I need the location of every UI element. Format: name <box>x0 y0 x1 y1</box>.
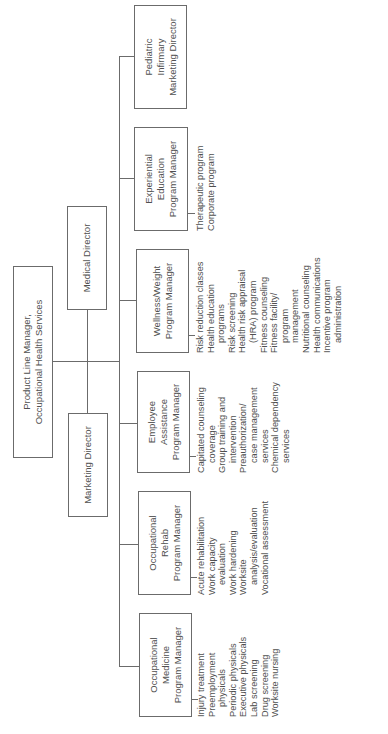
list-item: Capitated counseling <box>196 382 207 473</box>
drop-occ-rehab <box>119 544 138 545</box>
employee-assistance-box: Employee Assistance Program Manager <box>137 371 190 473</box>
list-tick <box>188 213 195 214</box>
marketing-director-box: Marketing Director <box>68 413 108 517</box>
medical-director-label: Medical Director <box>81 224 93 293</box>
list-item-continuation: coverage <box>207 382 218 473</box>
list-item-continuation: case management <box>249 382 260 473</box>
occupational-rehab-services: Acute rehabilitation Work capacity evalu… <box>196 501 270 595</box>
list-item-continuation: evaluation <box>217 501 228 595</box>
marketing-director-label: Marketing Director <box>82 426 94 504</box>
root-title-line2: Occupational Health Services <box>33 300 45 425</box>
occupational-medicine-services: Injury treatment Preemployment physicals… <box>196 637 281 717</box>
connector-trunk <box>119 56 120 667</box>
list-item-continuation: administration <box>333 258 344 354</box>
list-item: Health education <box>206 258 217 354</box>
box-line: Occupational <box>147 505 159 582</box>
box-line: Rehab <box>159 505 171 582</box>
list-item: Health risk appraisal <box>237 258 248 354</box>
box-line: Occupational <box>148 627 160 704</box>
list-item-continuation: program <box>280 258 291 354</box>
experiential-education-services: Therapeutic program Corporate program <box>195 146 216 231</box>
list-item: Fitness facility/ <box>269 258 280 354</box>
box-line: Program Manager <box>167 141 179 218</box>
occupational-medicine-box: Occupational Medicine Program Manager <box>139 613 192 717</box>
list-item: Acute rehabilitation <box>196 501 207 595</box>
medical-director-box: Medical Director <box>67 206 107 310</box>
box-line: Program Manager <box>172 627 184 704</box>
drop-employee-assistance <box>119 423 137 424</box>
list-item: Preauthorization/ <box>238 382 249 473</box>
list-item-continuation: analysis/evaluation <box>249 501 260 595</box>
drop-wellness <box>119 300 136 301</box>
box-line: Program Manager <box>171 505 183 582</box>
list-item: Corporate program <box>206 146 217 231</box>
list-item: Fitness counseling <box>259 258 270 354</box>
drop-experiential <box>119 178 134 179</box>
list-item: Work capacity <box>207 501 218 595</box>
list-item: Work hardening <box>228 501 239 595</box>
box-line: Program Manager <box>170 384 182 461</box>
box-line: Wellness/Weight <box>151 263 163 340</box>
list-item-continuation: programs <box>216 258 227 354</box>
drop-occ-medicine <box>119 666 139 667</box>
box-line: Education <box>155 141 167 218</box>
box-line: Program Manager <box>163 263 175 340</box>
list-item: Risk reduction classes <box>195 258 206 354</box>
list-item: Periodic physicals <box>228 637 239 717</box>
list-item: Lab screening <box>249 637 260 717</box>
org-chart: Product Line Manager, Occupational Healt… <box>0 0 388 734</box>
list-item: Preemployment <box>207 637 218 717</box>
box-line: Medicine <box>160 627 172 704</box>
box-line: Pediatric <box>143 18 155 96</box>
list-item: Drug screening <box>260 637 271 717</box>
drop-pediatric <box>119 56 134 57</box>
box-line: Employee <box>146 384 158 461</box>
list-item: Health communications <box>312 258 323 354</box>
list-item: Worksite nursing <box>270 637 281 717</box>
list-item: Vocational assessment <box>260 501 271 595</box>
list-item: Chemical dependency <box>270 382 281 473</box>
list-item: Risk screening <box>227 258 238 354</box>
employee-assistance-services: Capitated counseling coverage Group trai… <box>196 382 291 473</box>
wellness-weight-box: Wellness/Weight Program Manager <box>136 249 189 353</box>
list-item-continuation: services <box>281 382 292 473</box>
box-line: Marketing Director <box>167 18 179 96</box>
box-line: Infirmary <box>155 18 167 96</box>
list-item-continuation: intervention <box>228 382 239 473</box>
list-item: Executive physicals <box>238 637 249 717</box>
connector-root-to-trunk <box>53 361 119 362</box>
experiential-education-box: Experiential Education Program Manager <box>134 127 188 231</box>
connector-directors <box>87 310 88 413</box>
box-line: Experiential <box>143 141 155 218</box>
list-item-continuation: (HRA) program <box>248 258 259 354</box>
list-item: Injury treatment <box>196 637 207 717</box>
root-box-product-line-manager: Product Line Manager, Occupational Healt… <box>13 266 53 458</box>
pediatric-infirmary-box: Pediatric Infirmary Marketing Director <box>134 5 187 109</box>
occupational-rehab-box: Occupational Rehab Program Manager <box>138 491 191 595</box>
list-item: Incentive program <box>322 258 333 354</box>
list-item-continuation: management <box>290 258 301 354</box>
list-item: Worksite <box>238 501 249 595</box>
list-item: Therapeutic program <box>195 146 206 231</box>
wellness-weight-services: Risk reduction classes Health education … <box>195 258 343 354</box>
list-item: Group training and <box>217 382 228 473</box>
list-item-continuation: physicals <box>217 637 228 717</box>
box-line: Assistance <box>158 384 170 461</box>
root-title-line1: Product Line Manager, <box>21 300 33 425</box>
list-item-continuation: services <box>260 382 271 473</box>
list-item: Nutritional counseling <box>301 258 312 354</box>
